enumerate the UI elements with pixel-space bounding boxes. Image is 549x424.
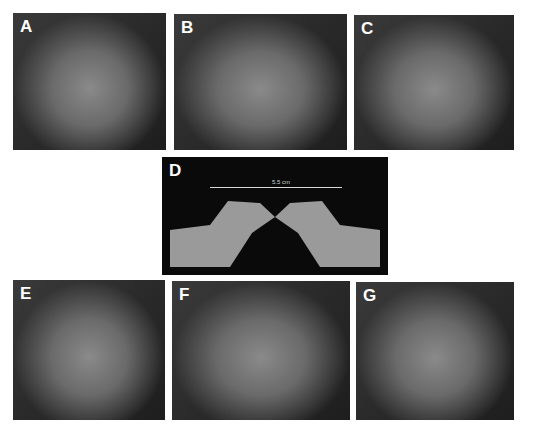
- photo-panel-g: G: [356, 282, 514, 420]
- photo-placeholder: [13, 13, 166, 150]
- photo-panel-f: F: [172, 281, 350, 420]
- panel-label: G: [363, 287, 376, 304]
- panel-label: C: [361, 20, 373, 37]
- photo-placeholder: [172, 281, 350, 420]
- photo-placeholder: [356, 282, 514, 420]
- panel-label: B: [181, 19, 193, 36]
- photo-panel-e: E: [13, 280, 165, 420]
- measurement-line: [210, 187, 342, 188]
- panel-label: F: [179, 286, 189, 303]
- photo-placeholder: [13, 280, 165, 420]
- panel-label: A: [20, 18, 32, 35]
- photo-panel-b: B: [174, 14, 347, 150]
- photo-placeholder: [354, 15, 514, 150]
- photo-placeholder: [174, 14, 347, 150]
- panel-label: D: [169, 162, 181, 179]
- 3d-surface-scan: [170, 195, 380, 269]
- measurement-label: 5.5 cm: [272, 179, 290, 185]
- scan-panel-d: 5.5 cm D: [162, 157, 388, 275]
- photo-panel-c: C: [354, 15, 514, 150]
- photo-panel-a: A: [13, 13, 166, 150]
- panel-label: E: [20, 285, 31, 302]
